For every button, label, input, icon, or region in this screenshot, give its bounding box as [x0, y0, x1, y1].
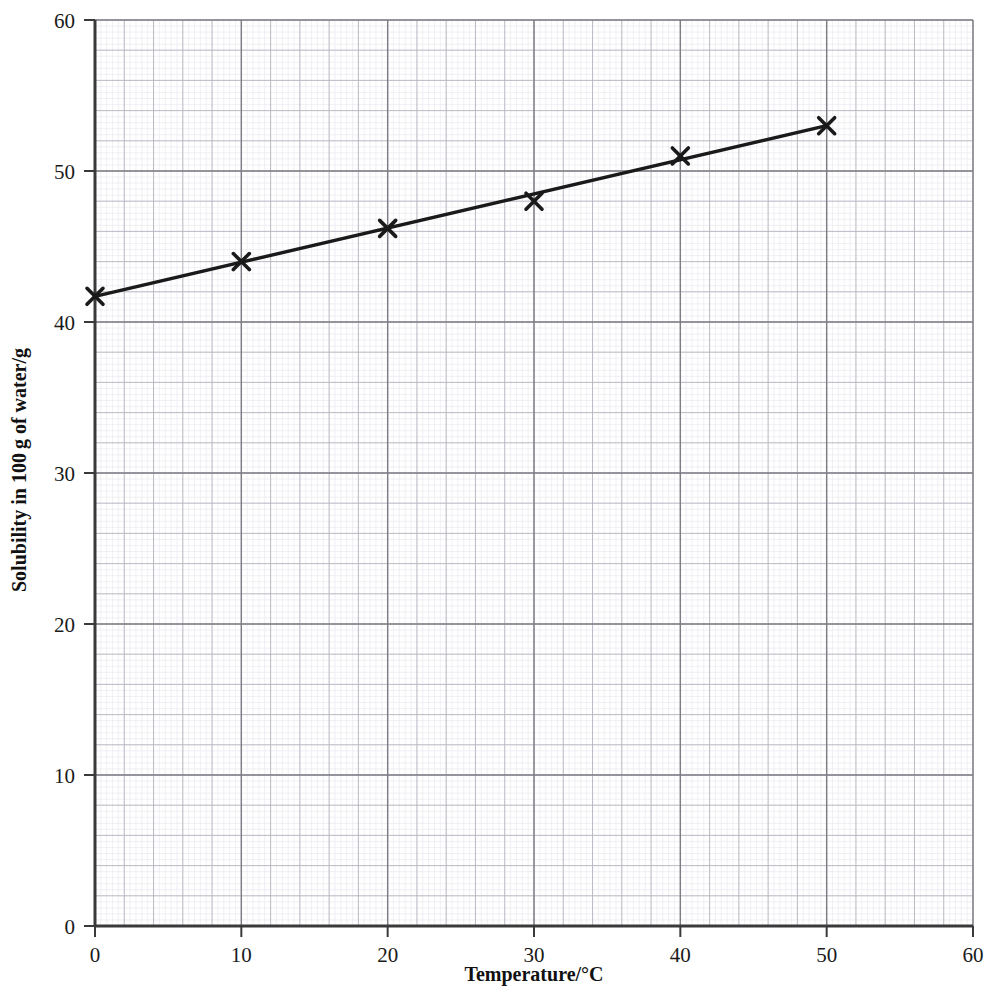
x-tick-label: 50 [816, 943, 837, 967]
chart-svg: 0102030405060 0102030405060 Temperature/… [0, 0, 994, 993]
y-axis-tick-labels: 0102030405060 [54, 9, 75, 939]
y-axis-ticks [84, 20, 95, 926]
y-axis-title: Solubility in 100 g of water/g [8, 348, 31, 592]
x-axis-title: Temperature/°C [464, 963, 603, 986]
x-tick-label: 10 [231, 943, 252, 967]
y-tick-label: 60 [54, 9, 75, 33]
x-axis-ticks [95, 926, 973, 937]
x-tick-label: 60 [963, 943, 984, 967]
x-tick-label: 40 [670, 943, 691, 967]
y-tick-label: 20 [54, 613, 75, 637]
x-tick-label: 20 [377, 943, 398, 967]
y-tick-label: 50 [54, 160, 75, 184]
x-tick-label: 0 [90, 943, 101, 967]
y-tick-label: 10 [54, 764, 75, 788]
y-tick-label: 40 [54, 311, 75, 335]
solubility-temperature-chart: 0102030405060 0102030405060 Temperature/… [0, 0, 994, 993]
y-tick-label: 0 [65, 915, 76, 939]
y-tick-label: 30 [54, 462, 75, 486]
